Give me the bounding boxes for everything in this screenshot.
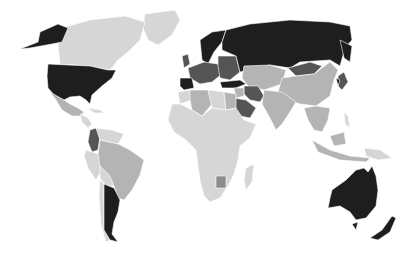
region-australia[interactable] <box>328 166 378 220</box>
region-greenland[interactable] <box>143 10 180 45</box>
region-western-europe[interactable] <box>188 62 222 84</box>
region-caribbean[interactable] <box>88 108 104 113</box>
region-turkey[interactable] <box>220 80 246 88</box>
region-botswana[interactable] <box>216 176 226 188</box>
region-libya[interactable] <box>208 90 226 110</box>
region-madagascar[interactable] <box>244 164 254 190</box>
region-egypt[interactable] <box>224 92 236 110</box>
world-choropleth-map <box>0 0 408 257</box>
region-southeast-asia[interactable] <box>304 106 330 132</box>
region-indonesia[interactable] <box>330 132 346 146</box>
region-africa[interactable] <box>168 104 256 202</box>
region-central-america[interactable] <box>80 114 92 128</box>
region-philippines[interactable] <box>344 112 350 128</box>
region-tasmania[interactable] <box>352 222 358 230</box>
region-spain[interactable] <box>180 78 194 90</box>
region-new-zealand[interactable] <box>370 216 396 240</box>
region-canada[interactable] <box>58 16 145 70</box>
region-uk[interactable] <box>182 54 190 68</box>
